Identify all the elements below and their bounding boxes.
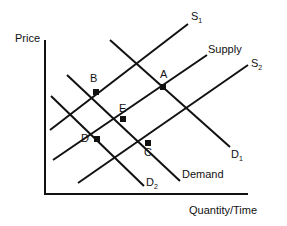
y-axis-label: Price: [15, 32, 40, 44]
point-a-label: A: [160, 68, 167, 80]
supply-label: Supply: [208, 43, 242, 55]
point-b-marker: [93, 89, 99, 95]
supply-curve: [53, 55, 207, 160]
supply-demand-chart: Price Quantity/Time S1 Supply S2 D1 Dema…: [0, 0, 287, 226]
point-d-label: D: [81, 132, 89, 144]
point-d-marker: [94, 136, 100, 142]
s1-label: S1: [191, 10, 202, 24]
x-axis-label: Quantity/Time: [189, 204, 257, 216]
demand-label: Demand: [182, 168, 224, 180]
point-a-marker: [160, 84, 166, 90]
s2-label: S2: [251, 57, 262, 71]
point-c-label: C: [144, 146, 152, 158]
point-e-marker: [120, 116, 126, 122]
point-e-label: E: [119, 102, 126, 114]
d2-label: D2: [146, 176, 158, 190]
d1-label: D1: [231, 148, 243, 162]
chart-canvas: [0, 0, 287, 226]
point-b-label: B: [90, 72, 97, 84]
